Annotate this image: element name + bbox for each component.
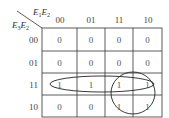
cell-11-11: 1 <box>105 80 133 90</box>
cell-10-01: 0 <box>77 102 105 112</box>
row-variable-label: E3E2 <box>12 21 29 31</box>
cell-01-11: 0 <box>105 58 133 68</box>
column-header: 00 <box>46 15 74 25</box>
cell-01-00: 0 <box>42 58 77 68</box>
cell-11-10: 1 <box>133 80 162 90</box>
row-header: 11 <box>24 80 38 90</box>
cell-00-00: 0 <box>42 35 77 45</box>
column-header: 01 <box>77 15 105 25</box>
cell-01-01: 0 <box>77 58 105 68</box>
karnaugh-map: E1E2 E3E2 00 01 11 10 00 01 11 10 0 0 0 … <box>0 0 169 118</box>
cell-01-10: 0 <box>133 58 162 68</box>
column-header: 11 <box>105 15 133 25</box>
cell-11-01: 1 <box>77 80 105 90</box>
cell-00-01: 0 <box>77 35 105 45</box>
row-header: 00 <box>24 35 38 45</box>
row-header: 10 <box>24 102 38 112</box>
cell-00-10: 0 <box>133 35 162 45</box>
column-header: 10 <box>134 15 162 25</box>
row-header: 01 <box>24 58 38 68</box>
cell-10-00: 0 <box>42 102 77 112</box>
cell-10-10: 1 <box>133 102 162 112</box>
cell-11-00: 1 <box>42 80 77 90</box>
cell-10-11: 1 <box>105 102 133 112</box>
cell-00-11: 0 <box>105 35 133 45</box>
